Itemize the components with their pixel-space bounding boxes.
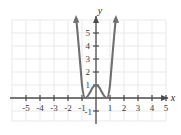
x-tick-label--3: -3 xyxy=(50,103,58,113)
curve-right-arrow xyxy=(113,15,120,23)
graph-figure: -5 -4 -3 -2 -1 1 2 3 4 5 5 4 3 2 1 -1 x … xyxy=(0,0,181,135)
x-axis-arrow xyxy=(161,95,168,101)
x-tick-label-5: 5 xyxy=(164,103,169,113)
y-tick-label-1: 1 xyxy=(86,80,91,90)
coordinate-plane: -5 -4 -3 -2 -1 1 2 3 4 5 5 4 3 2 1 -1 x … xyxy=(0,0,181,135)
x-tick-label-4: 4 xyxy=(150,103,155,113)
y-tick-label-4: 4 xyxy=(86,41,91,51)
y-tick-label-3: 3 xyxy=(86,54,91,64)
x-axis-label: x xyxy=(170,92,176,103)
y-tick-label-2: 2 xyxy=(86,67,91,77)
y-axis-label: y xyxy=(97,5,103,16)
x-tick-label--4: -4 xyxy=(36,103,44,113)
x-tick-label-1: 1 xyxy=(108,103,113,113)
x-tick-label-3: 3 xyxy=(136,103,141,113)
y-tick-label-5: 5 xyxy=(86,28,91,38)
x-tick-label--2: -2 xyxy=(64,103,72,113)
y-tick-label--1: -1 xyxy=(85,107,93,117)
curve-left-arrow xyxy=(73,15,80,23)
x-tick-label-2: 2 xyxy=(122,103,127,113)
x-tick-label--5: -5 xyxy=(22,103,30,113)
